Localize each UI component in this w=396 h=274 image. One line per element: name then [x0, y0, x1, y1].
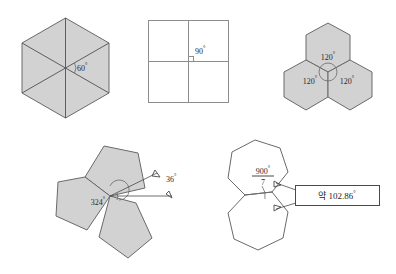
right-angle-marker	[189, 57, 194, 62]
figure-three-pentagons: 324° 36°	[56, 146, 177, 258]
pentagons-gap-arc	[117, 193, 118, 200]
geometry-figure-canvas: 60° 90° 120° 120° 120°	[0, 0, 396, 274]
heptagon-lower	[228, 192, 288, 250]
figure-four-squares: 90°	[149, 21, 229, 103]
pentagon-gap-angle-label: 36°	[166, 173, 177, 183]
pentagon-bottom-right	[99, 196, 152, 258]
pentagon-gap-arrow-lower	[166, 191, 172, 198]
square-angle-label: 90°	[195, 45, 206, 55]
heptagon-callout-label: 약 102.86°	[318, 190, 356, 201]
figure-three-hexagons: 120° 120° 120°	[284, 23, 372, 110]
figure-sheet: 60° 90° 120° 120° 120°	[0, 0, 396, 274]
heptagon-callout-arrow-lower	[274, 205, 281, 211]
figure-two-heptagons: 900° 7 약 102.86°	[228, 140, 380, 250]
heptagon-angle-numerator: 900°	[256, 165, 271, 175]
figure-hexagon-six-triangles: 60°	[22, 18, 109, 118]
heptagon-angle-denominator: 7	[261, 178, 265, 187]
